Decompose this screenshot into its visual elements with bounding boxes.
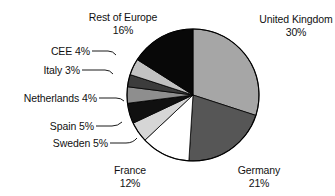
- label-rest-of-europe-name: Rest of Europe: [77, 11, 169, 24]
- label-united-kingdom-pct: 30%: [258, 26, 334, 39]
- leader-line-spain: [96, 122, 122, 126]
- label-rest-of-europe: Rest of Europe 16%: [77, 11, 169, 36]
- label-netherlands-name: Netherlands: [24, 92, 80, 104]
- label-netherlands: Netherlands 4%: [2, 92, 97, 105]
- label-united-kingdom: United Kingdom 30%: [258, 13, 334, 38]
- label-cee: CEE 4%: [26, 45, 90, 58]
- label-rest-of-europe-pct: 16%: [77, 24, 169, 37]
- label-spain: Spain 5%: [10, 120, 94, 133]
- label-italy: Italy 3%: [10, 64, 80, 77]
- leader-line-cee: [92, 51, 116, 55]
- label-cee-pct: 4%: [75, 45, 90, 57]
- label-sweden-pct: 5%: [93, 137, 108, 149]
- leader-line-sweden: [110, 138, 137, 143]
- label-spain-pct: 5%: [79, 120, 94, 132]
- label-united-kingdom-name: United Kingdom: [258, 13, 334, 26]
- pie-chart-figure: United Kingdom 30% Germany 21% France 12…: [0, 0, 335, 196]
- leader-line-netherlands: [99, 98, 124, 101]
- label-france-name: France: [104, 164, 156, 177]
- label-spain-name: Spain: [50, 120, 76, 132]
- label-cee-name: CEE: [51, 45, 72, 57]
- label-italy-name: Italy: [43, 64, 62, 76]
- label-netherlands-pct: 4%: [82, 92, 97, 104]
- label-france: France 12%: [104, 164, 156, 189]
- label-italy-pct: 3%: [65, 64, 80, 76]
- label-sweden-name: Sweden: [53, 137, 90, 149]
- pie-slice-group: [127, 29, 259, 161]
- label-france-pct: 12%: [104, 177, 156, 190]
- leader-line-italy: [82, 70, 113, 74]
- label-germany: Germany 21%: [228, 164, 290, 189]
- label-germany-pct: 21%: [228, 177, 290, 190]
- label-germany-name: Germany: [228, 164, 290, 177]
- label-sweden: Sweden 5%: [10, 137, 108, 150]
